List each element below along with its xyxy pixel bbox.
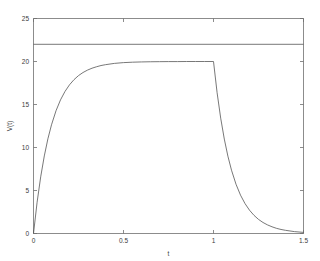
figure-background [0,0,320,261]
y-tick-label: 5 [25,187,29,194]
y-tick-label: 20 [22,58,30,65]
x-tick-label: 0 [32,237,36,244]
y-tick-label: 25 [22,15,30,22]
x-tick-label: 1.5 [299,237,308,244]
y-tick-label: 10 [22,144,30,151]
y-axis-label: V(t) [6,121,14,131]
x-tick-label: 0.5 [119,237,128,244]
x-axis-label: t [168,250,170,257]
y-tick-label: 15 [22,101,30,108]
plot-svg: 00.511.5 0510152025 t V(t) [0,0,320,261]
y-tick-label: 0 [25,230,29,237]
x-tick-label: 1 [212,237,216,244]
figure-canvas: 00.511.5 0510152025 t V(t) [0,0,320,261]
